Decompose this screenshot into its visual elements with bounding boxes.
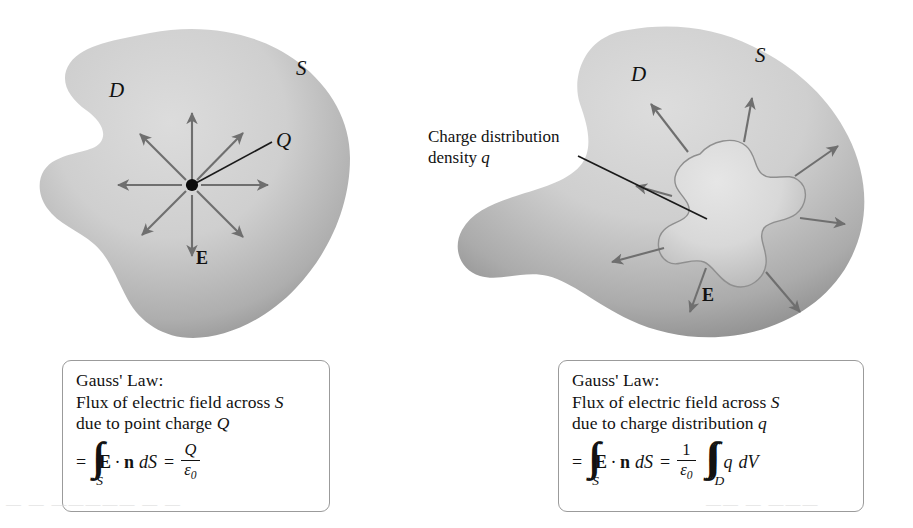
- label-region-D-left: D: [109, 78, 124, 103]
- annotation-symbol-q: q: [481, 148, 490, 167]
- equation-charge-distribution: = ∫∫ S E · n dS = 1 ε0 ∫∫∫ D q dV: [572, 440, 851, 485]
- scan-artifact-right: —— — ———: [706, 496, 820, 513]
- charge-distribution-annotation: Charge distribution density q: [428, 126, 559, 168]
- integral-subscript-right: S: [592, 473, 599, 489]
- caption-line2-symbol-left: S: [275, 392, 284, 412]
- vector-n-right: n: [620, 452, 630, 473]
- caption-title-right: Gauss' Law:: [572, 370, 851, 392]
- triple-integral-right: ∫∫∫ D: [706, 440, 712, 485]
- caption-line3-left: due to point charge Q: [76, 413, 317, 435]
- label-region-D-right: D: [631, 62, 646, 87]
- epsilon-subscript-right: 0: [687, 469, 693, 481]
- equals-sign-2-right: =: [653, 452, 674, 473]
- double-integral-right: ∫∫ S: [588, 440, 592, 485]
- triple-integral-signs: ∫∫∫: [706, 442, 712, 472]
- fraction-Q-over-epsilon0: Q ε0: [181, 442, 199, 482]
- vector-E-left: E: [99, 452, 111, 473]
- fraction-numerator-one: 1: [679, 442, 693, 460]
- integral-subscript-left: S: [96, 473, 103, 489]
- fraction-denominator-epsilon0-right: ε0: [677, 460, 695, 482]
- label-surface-S-left: S: [296, 56, 307, 81]
- vector-n-left: n: [124, 452, 134, 473]
- triple-integral-subscript: D: [715, 473, 725, 489]
- epsilon-subscript-left: 0: [191, 469, 197, 481]
- equals-sign-right: =: [572, 452, 586, 473]
- caption-box-point-charge: Gauss' Law: Flux of electric field acros…: [62, 360, 330, 512]
- caption-line3-symbol-right: q: [758, 413, 767, 433]
- caption-box-charge-distribution: Gauss' Law: Flux of electric field acros…: [558, 360, 864, 512]
- fraction-denominator-epsilon0: ε0: [181, 460, 199, 482]
- integrand-density-q: q: [714, 452, 732, 473]
- fraction-one-over-epsilon0: 1 ε0: [677, 442, 695, 482]
- integral-signs-right: ∫∫: [588, 442, 592, 472]
- caption-line3-text-left: due to point charge: [76, 413, 217, 433]
- annotation-line-2: density q: [428, 147, 559, 168]
- point-charge-dot: [186, 179, 198, 191]
- integral-signs-left: ∫∫: [92, 442, 96, 472]
- vector-E-right: E: [595, 452, 607, 473]
- caption-line2-symbol-right: S: [771, 392, 780, 412]
- scan-artifact-left: — — ————— — —: [6, 496, 182, 513]
- label-field-E-left: E: [196, 248, 208, 269]
- volume-measure-dV: dV: [732, 452, 758, 473]
- equals-sign-2-left: =: [157, 452, 178, 473]
- caption-line2-text-right: Flux of electric field across: [572, 392, 771, 412]
- right-region-group: [458, 27, 865, 338]
- label-surface-S-right: S: [755, 43, 766, 68]
- fraction-numerator-Q: Q: [181, 442, 199, 460]
- annotation-line-1: Charge distribution: [428, 126, 559, 147]
- caption-line2-right: Flux of electric field across S: [572, 392, 851, 414]
- caption-line2-left: Flux of electric field across S: [76, 392, 317, 414]
- caption-title-left: Gauss' Law:: [76, 370, 317, 392]
- equation-point-charge: = ∫∫ S E · n dS = Q ε0: [76, 440, 317, 485]
- measure-dS-right: dS: [630, 452, 653, 473]
- caption-line3-symbol-left: Q: [217, 413, 230, 433]
- dot-product-operator-right: ·: [607, 452, 620, 473]
- label-field-E-right: E: [702, 285, 714, 306]
- equals-sign-left: =: [76, 452, 90, 473]
- double-integral-left: ∫∫ S: [92, 440, 96, 485]
- label-charge-Q: Q: [276, 128, 291, 153]
- annotation-line-2-text: density: [428, 148, 481, 167]
- caption-line2-text-left: Flux of electric field across: [76, 392, 275, 412]
- gauss-law-figure: D S Q E D S E Charge distribution densit…: [0, 0, 913, 528]
- dot-product-operator-left: ·: [111, 452, 124, 473]
- caption-line3-text-right: due to charge distribution: [572, 413, 758, 433]
- right-surface-boundary: [458, 27, 865, 338]
- caption-line3-right: due to charge distribution q: [572, 413, 851, 435]
- measure-dS-left: dS: [134, 452, 157, 473]
